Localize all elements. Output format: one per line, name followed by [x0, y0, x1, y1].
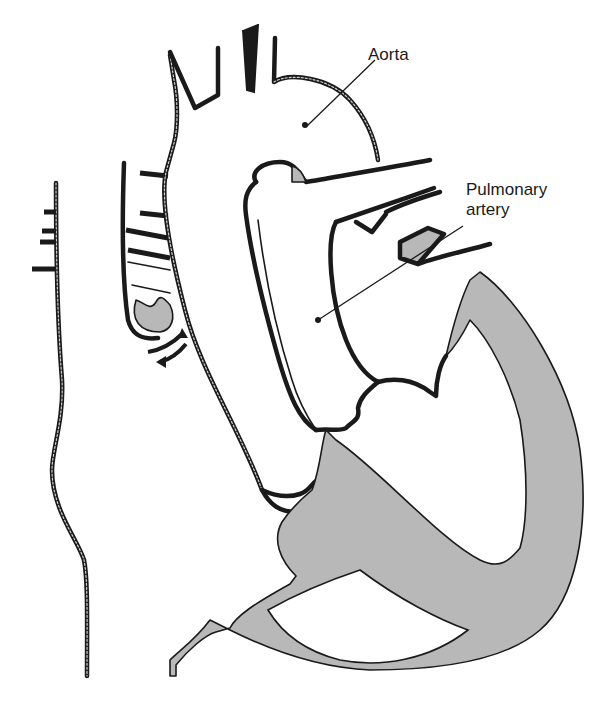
- pulmonary-artery-label-line2: artery: [466, 200, 509, 220]
- left-vessel-wall: [32, 183, 87, 676]
- arch-branches: [164, 24, 378, 512]
- right-atrium-region: [123, 163, 188, 368]
- pulmonary-artery-label-line1: Pulmonary: [466, 180, 547, 200]
- aorta-label: Aorta: [368, 45, 409, 65]
- ventricle-muscle: [170, 272, 583, 676]
- heart-diagram: [0, 0, 613, 703]
